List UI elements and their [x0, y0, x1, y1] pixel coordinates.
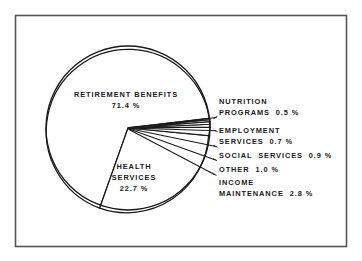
pie-chart-figure: RETIREMENT BENEFITS 71.4 % HEALTH SERVIC…: [0, 0, 362, 261]
health-services-label-line1: HEALTH: [117, 162, 152, 171]
social-services-label: SOCIAL SERVICES 0.9 %: [219, 151, 332, 160]
other-label: OTHER 1.0 %: [219, 165, 279, 174]
pie-chart-svg: RETIREMENT BENEFITS 71.4 % HEALTH SERVIC…: [0, 0, 362, 261]
nutrition-programs-label-line1: NUTRITION: [219, 97, 268, 106]
health-services-label-line2: SERVICES: [112, 173, 157, 182]
employment-services-label-line2: SERVICES 0.7 %: [219, 137, 293, 146]
retirement-benefits-value: 71.4 %: [112, 101, 141, 110]
retirement-benefits-label: RETIREMENT BENEFITS: [74, 90, 178, 99]
income-maintenance-label-line2: MAINTENANCE 2.8 %: [219, 189, 313, 198]
health-services-value: 22.7 %: [120, 184, 149, 193]
employment-services-label-line1: EMPLOYMENT: [219, 126, 280, 135]
nutrition-programs-label-line2: PROGRAMS 0.5 %: [219, 108, 299, 117]
hook-income: [212, 173, 217, 175]
callout-label-group: NUTRITION PROGRAMS 0.5 % EMPLOYMENT SERV…: [219, 97, 332, 198]
income-maintenance-label-line1: INCOME: [219, 178, 254, 187]
